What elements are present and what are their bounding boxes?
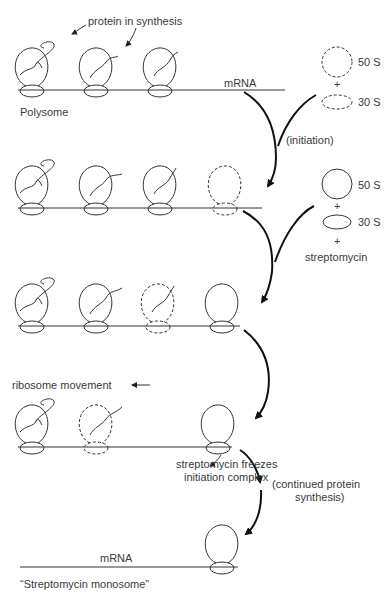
stage-initiation xyxy=(15,160,262,215)
label-protein-in-synthesis: protein in synthesis xyxy=(88,15,182,28)
stage-monosome xyxy=(20,525,238,574)
label-plus-a: + xyxy=(334,78,340,91)
stage-frozen-initiation xyxy=(15,385,234,466)
free-subunits-solid xyxy=(322,169,352,229)
ribosome xyxy=(15,399,54,454)
label-30s: 30 S xyxy=(358,216,381,229)
label-continued-line2: synthesis) xyxy=(295,491,345,504)
protein-chain xyxy=(90,56,118,78)
stage-streptomycin-binding xyxy=(15,278,240,333)
label-freezes-line1: streptomycin freezes xyxy=(176,458,277,471)
protein-folded xyxy=(36,42,54,64)
ribosome xyxy=(15,160,54,215)
label-initiation: (initiation) xyxy=(286,134,334,147)
subunit-50s-dashed xyxy=(322,47,352,77)
subunit-30s xyxy=(323,215,351,229)
label-30s-dashed: 30 S xyxy=(358,96,381,109)
protein-chain xyxy=(20,62,42,75)
progression-arrow xyxy=(244,330,269,418)
label-continued-line1: (continued protein xyxy=(272,478,360,491)
continued-arrow-lower xyxy=(246,490,261,534)
diagram-canvas xyxy=(0,0,391,596)
ribosome xyxy=(15,278,54,333)
ribosome xyxy=(15,42,54,97)
subunit-30s-dashed xyxy=(322,95,352,109)
label-50s: 50 S xyxy=(358,179,381,192)
label-50s-dashed: 50 S xyxy=(358,56,381,69)
label-mrna-bottom: mRNA xyxy=(100,552,132,565)
label-plus-b2: + xyxy=(334,235,340,248)
label-freezes-line2: initiation complex xyxy=(184,471,268,484)
label-monosome: “Streptomycin monosome” xyxy=(20,578,149,591)
subunit-50s xyxy=(322,169,352,199)
label-streptomycin: streptomycin xyxy=(305,251,367,264)
streptomycin-arrow xyxy=(243,211,272,302)
label-ribosome-movement: ribosome movement xyxy=(12,379,112,392)
label-mrna-top: mRNA xyxy=(224,77,256,90)
label-plus-b1: + xyxy=(334,200,340,213)
initiation-arrow xyxy=(244,92,276,186)
label-polysome: Polysome xyxy=(20,106,68,119)
protein-chain xyxy=(154,52,178,76)
